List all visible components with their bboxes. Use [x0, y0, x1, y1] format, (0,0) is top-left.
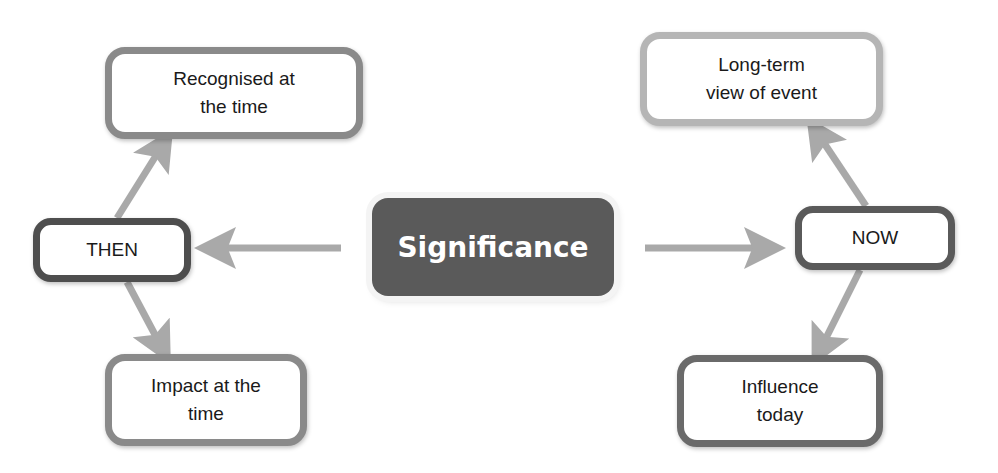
- influence-node: Influence today: [677, 355, 883, 447]
- impact-line1: Impact at the: [151, 372, 261, 400]
- recognised-line2: the time: [173, 93, 294, 121]
- longterm-line2: view of event: [706, 79, 817, 107]
- arrow-then-to-impact: [127, 282, 161, 346]
- influence-line2: today: [741, 401, 818, 429]
- significance-label: Significance: [397, 231, 588, 264]
- recognised-node: Recognised at the time: [105, 47, 363, 139]
- then-label: THEN: [86, 236, 138, 264]
- arrow-now-to-influence: [821, 270, 860, 348]
- recognised-line1: Recognised at: [173, 65, 294, 93]
- arrow-now-to-longterm: [818, 134, 866, 206]
- influence-line1: Influence: [741, 373, 818, 401]
- longterm-line1: Long-term: [706, 51, 817, 79]
- impact-line2: time: [151, 400, 261, 428]
- arrow-then-to-recognised: [117, 146, 162, 218]
- significance-node: Significance: [372, 198, 614, 296]
- now-label: NOW: [852, 224, 898, 252]
- impact-node: Impact at the time: [105, 354, 307, 446]
- then-node: THEN: [33, 218, 191, 282]
- longterm-node: Long-term view of event: [640, 32, 883, 126]
- now-node: NOW: [795, 206, 955, 270]
